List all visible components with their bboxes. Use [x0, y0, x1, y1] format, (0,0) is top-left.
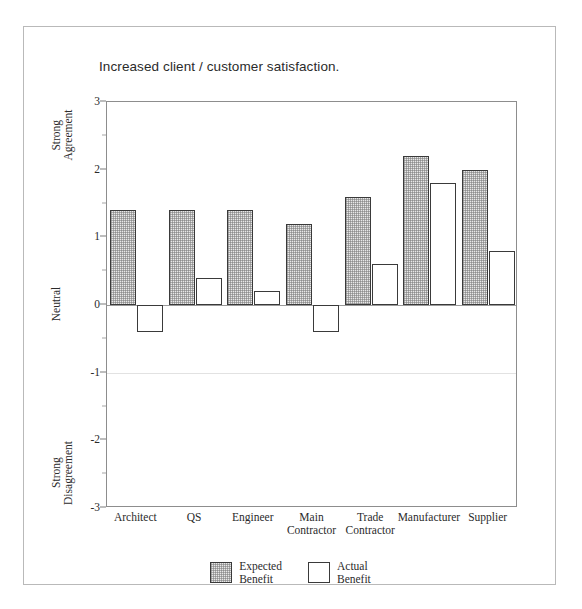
bar — [430, 183, 456, 305]
y-axis-tick-label: 2 — [94, 163, 100, 175]
bar — [345, 197, 371, 305]
legend-entry: Expected Benefit — [210, 560, 282, 586]
bar — [137, 305, 163, 332]
legend-label: Expected Benefit — [239, 560, 282, 586]
y-axis-tick-label: 1 — [94, 230, 100, 242]
legend-swatch — [308, 562, 330, 583]
bar — [489, 251, 515, 305]
bar — [403, 156, 429, 305]
y-axis-tick-label: -1 — [90, 366, 100, 378]
y-axis-tick-label: 3 — [94, 95, 100, 107]
x-axis-category-label: Supplier — [452, 511, 524, 524]
plot-area — [106, 101, 517, 507]
y-axis-anchor-label: Strong Disagreement — [50, 441, 75, 505]
bar — [196, 278, 222, 305]
bars-container — [107, 102, 516, 506]
bar — [254, 291, 280, 305]
bar — [169, 210, 195, 305]
legend-swatch — [210, 562, 232, 583]
zero-baseline — [107, 305, 516, 306]
legend-label: Actual Benefit — [337, 560, 371, 586]
chart-title: Increased client / customer satisfaction… — [99, 59, 339, 74]
chart-legend: Expected BenefitActual Benefit — [24, 560, 557, 586]
bar — [110, 210, 136, 305]
y-axis-tick-label: -2 — [90, 433, 100, 445]
y-axis-anchor-label: Neutral — [50, 287, 62, 321]
bar — [462, 170, 488, 305]
bar — [313, 305, 339, 332]
y-axis-anchor-label: Strong Agreement — [50, 109, 75, 160]
x-axis-category-labels: ArchitectQSEngineerMain ContractorTrade … — [106, 511, 517, 551]
bar — [227, 210, 253, 305]
gridline — [107, 373, 516, 374]
legend-entry: Actual Benefit — [308, 560, 371, 586]
y-axis-tick-labels: 3210-1-2-3 — [76, 101, 100, 507]
figure-frame: Increased client / customer satisfaction… — [23, 26, 556, 585]
y-axis-tick-label: 0 — [94, 298, 100, 310]
bar — [286, 224, 312, 305]
bar — [372, 264, 398, 305]
